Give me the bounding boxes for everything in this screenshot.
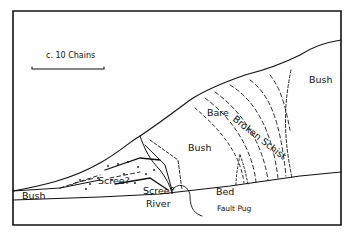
scale-bar	[32, 67, 104, 69]
label-bush-top-right: Bush	[309, 75, 333, 85]
label-bed: Bed	[216, 187, 234, 197]
map-frame	[13, 11, 341, 225]
label-bush-left: Bush	[22, 191, 46, 201]
label-bush-center: Bush	[188, 143, 212, 153]
label-scree-2: Scree?	[143, 186, 175, 196]
geological-sketch: c. 10 Chains Bush Bare Broken Schist Bus…	[0, 0, 357, 238]
scale-label: c. 10 Chains	[46, 52, 95, 60]
label-scree-1: Scree?	[98, 176, 130, 186]
ridge-line	[13, 40, 341, 191]
label-bare: Bare	[207, 108, 229, 118]
sketch-drawing	[0, 0, 357, 238]
label-fault-pug: Fault Pug	[217, 205, 251, 213]
label-river: River	[146, 199, 171, 209]
